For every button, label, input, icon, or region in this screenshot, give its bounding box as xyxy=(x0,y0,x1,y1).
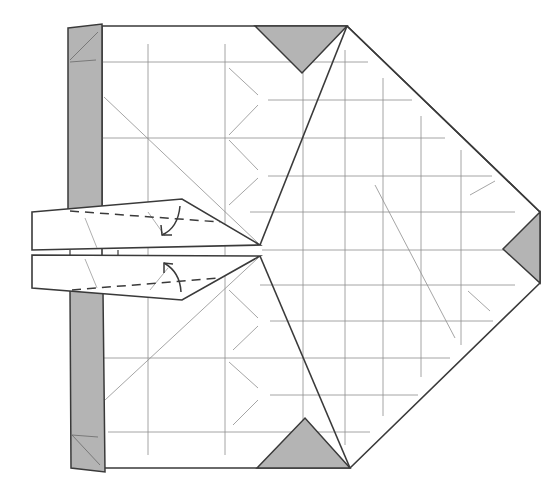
diagram-canvas xyxy=(0,0,560,500)
left-strip-bottom xyxy=(70,290,105,472)
left-strip-top xyxy=(68,24,102,226)
origami-diagram xyxy=(0,0,560,500)
